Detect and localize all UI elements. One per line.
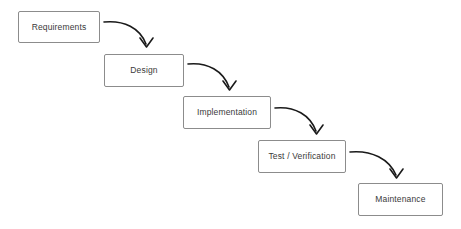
arrowhead-icon bbox=[390, 169, 403, 178]
connector-design-to-implementation bbox=[188, 64, 236, 90]
arrowhead-icon bbox=[223, 81, 236, 90]
connector-implementation-to-test bbox=[275, 108, 323, 134]
connector-test-to-maintenance bbox=[350, 152, 403, 178]
stage-box-test-verification: Test / Verification bbox=[258, 140, 346, 173]
connector-requirements-to-design bbox=[104, 22, 153, 47]
stage-box-design: Design bbox=[104, 54, 184, 87]
connector-curve bbox=[275, 108, 316, 131]
connector-curve bbox=[104, 22, 146, 44]
arrowhead-icon bbox=[310, 125, 323, 134]
connector-curve bbox=[350, 152, 396, 175]
stage-box-requirements: Requirements bbox=[18, 11, 100, 43]
stage-label: Requirements bbox=[32, 23, 87, 32]
arrowhead-icon bbox=[140, 38, 153, 47]
stage-label: Implementation bbox=[197, 108, 257, 117]
stage-label: Test / Verification bbox=[268, 152, 335, 161]
stage-box-implementation: Implementation bbox=[183, 96, 271, 129]
stage-label: Maintenance bbox=[375, 195, 425, 204]
waterfall-diagram: Requirements Design Implementation Test … bbox=[0, 0, 461, 229]
connector-curve bbox=[188, 64, 229, 87]
stage-label: Design bbox=[130, 66, 157, 75]
stage-box-maintenance: Maintenance bbox=[358, 183, 443, 216]
